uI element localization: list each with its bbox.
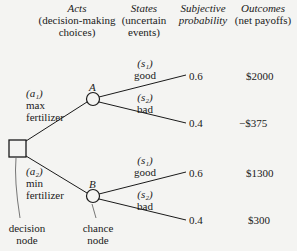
state-b-good: (s₁) good bbox=[130, 154, 160, 178]
chance-node-a-label: A bbox=[89, 81, 96, 93]
state-b-bad-label: bad bbox=[130, 200, 160, 212]
decision-node bbox=[9, 140, 26, 157]
chance-node-caption-2: node bbox=[78, 234, 118, 246]
decision-node-pointer bbox=[16, 158, 21, 218]
state-a-good: (s₁) good bbox=[130, 57, 160, 81]
probability-a-good: 0.6 bbox=[189, 70, 203, 82]
decision-node-caption: decision node bbox=[4, 222, 50, 246]
state-b-good-id: (s₁) bbox=[130, 154, 160, 166]
state-a-good-id: (s₁) bbox=[130, 57, 160, 69]
header-states: States (uncertain events) bbox=[114, 2, 174, 38]
header-probability-title1: Subjective bbox=[172, 2, 234, 14]
chance-node-caption: chance node bbox=[78, 222, 118, 246]
act-a1-label: (a₁) max fertilizer bbox=[26, 87, 64, 123]
act-a1-line1: max bbox=[26, 99, 64, 111]
state-a-good-label: good bbox=[130, 69, 160, 81]
act-a2-label: (a₂) min fertilizer bbox=[26, 165, 64, 201]
chance-node-a bbox=[87, 93, 100, 106]
chance-node-b-label: B bbox=[89, 178, 96, 190]
state-a-bad: (s₂) bad bbox=[130, 91, 160, 115]
act-a2-id: (a₂) bbox=[26, 165, 64, 177]
outcome-b-bad: $300 bbox=[248, 214, 270, 226]
header-states-sub1: (uncertain bbox=[114, 14, 174, 26]
header-outcomes-sub1: (net payoffs) bbox=[230, 14, 296, 26]
header-states-title: States bbox=[114, 2, 174, 14]
outcome-a-bad: −$375 bbox=[239, 117, 267, 129]
outcome-a-good: $2000 bbox=[246, 70, 274, 82]
probability-a-bad: 0.4 bbox=[189, 117, 203, 129]
decision-node-caption-1: decision bbox=[4, 222, 50, 234]
state-b-bad-id: (s₂) bbox=[130, 188, 160, 200]
chance-node-b bbox=[87, 190, 100, 203]
chance-node-caption-1: chance bbox=[78, 222, 118, 234]
header-probability-title2: probability bbox=[172, 14, 234, 26]
act-a1-id: (a₁) bbox=[26, 87, 64, 99]
header-outcomes-title: Outcomes bbox=[230, 2, 296, 14]
outcome-b-good: $1300 bbox=[246, 167, 274, 179]
header-states-sub2: events) bbox=[114, 26, 174, 38]
decision-node-caption-2: node bbox=[4, 234, 50, 246]
act-a1-line2: fertilizer bbox=[26, 111, 64, 123]
state-a-bad-id: (s₂) bbox=[130, 91, 160, 103]
act-a2-line2: fertilizer bbox=[26, 189, 64, 201]
header-probability: Subjective probability bbox=[172, 2, 234, 26]
state-a-bad-label: bad bbox=[130, 103, 160, 115]
probability-b-bad: 0.4 bbox=[189, 214, 203, 226]
act-a2-line1: min bbox=[26, 177, 64, 189]
state-b-good-label: good bbox=[130, 166, 160, 178]
chance-node-pointer bbox=[92, 204, 96, 218]
probability-b-good: 0.6 bbox=[189, 167, 203, 179]
header-outcomes: Outcomes (net payoffs) bbox=[230, 2, 296, 26]
state-b-bad: (s₂) bad bbox=[130, 188, 160, 212]
